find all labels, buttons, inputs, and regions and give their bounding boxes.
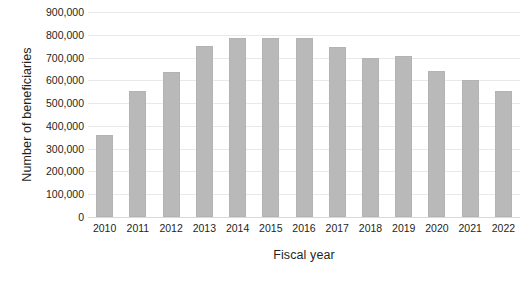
x-axis-tick-label: 2012 [154, 220, 187, 236]
x-axis-tick-label: 2015 [254, 220, 287, 236]
plot-area [88, 12, 520, 217]
y-axis-tick-label: 800,000 [46, 30, 84, 41]
y-axis-tick-label: 200,000 [46, 166, 84, 177]
bar-series [88, 12, 520, 217]
bar [462, 80, 479, 217]
y-axis-tick-labels: 0100,000200,000300,000400,000500,000600,… [34, 12, 84, 217]
bar [262, 38, 279, 217]
bar [362, 58, 379, 217]
bar [495, 91, 512, 217]
x-axis-tick-label: 2022 [487, 220, 520, 236]
bar [428, 71, 445, 217]
bar-slot [121, 12, 154, 217]
x-axis-tick-label: 2021 [454, 220, 487, 236]
y-axis-tick-label: 500,000 [46, 98, 84, 109]
x-axis-tick-label: 2017 [321, 220, 354, 236]
y-axis-tick-label: 900,000 [46, 7, 84, 18]
x-axis-tick-label: 2018 [354, 220, 387, 236]
bar-slot [154, 12, 187, 217]
x-axis-tick-label: 2013 [188, 220, 221, 236]
x-axis-tick-labels: 2010201120122013201420152016201720182019… [88, 220, 520, 236]
x-axis-tick-label: 2011 [121, 220, 154, 236]
bar [229, 38, 246, 217]
axis-baseline [88, 217, 520, 218]
bar-slot [88, 12, 121, 217]
x-axis-title: Fiscal year [88, 248, 520, 262]
bar-slot [387, 12, 420, 217]
bar-slot [287, 12, 320, 217]
y-axis-tick-label: 700,000 [46, 52, 84, 63]
bar [163, 72, 180, 217]
x-axis-tick-label: 2020 [420, 220, 453, 236]
bar [129, 91, 146, 217]
x-axis-tick-label: 2016 [287, 220, 320, 236]
bar-chart: Number of beneficiaries 0100,000200,0003… [0, 0, 532, 283]
x-axis-tick-label: 2014 [221, 220, 254, 236]
y-axis-tick-label: 100,000 [46, 189, 84, 200]
bar [296, 38, 313, 217]
bar [96, 135, 113, 217]
x-axis-tick-label: 2019 [387, 220, 420, 236]
y-axis-tick-label: 0 [78, 212, 84, 223]
bar [395, 56, 412, 217]
bar [329, 47, 346, 217]
bar-slot [321, 12, 354, 217]
y-axis-tick-label: 300,000 [46, 143, 84, 154]
bar-slot [420, 12, 453, 217]
x-axis-tick-label: 2010 [88, 220, 121, 236]
bar-slot [487, 12, 520, 217]
y-axis-tick-label: 600,000 [46, 75, 84, 86]
bar-slot [354, 12, 387, 217]
bar-slot [221, 12, 254, 217]
bar-slot [188, 12, 221, 217]
bar-slot [454, 12, 487, 217]
y-axis-tick-label: 400,000 [46, 121, 84, 132]
bar-slot [254, 12, 287, 217]
bar [196, 46, 213, 217]
